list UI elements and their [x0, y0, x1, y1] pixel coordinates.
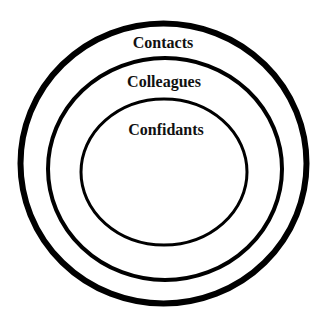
label-colleagues: Colleagues — [127, 73, 201, 91]
concentric-circles-diagram: Contacts Colleagues Confidants — [0, 0, 330, 323]
outer-ring-contacts — [21, 24, 307, 304]
label-contacts: Contacts — [133, 34, 193, 51]
label-confidants: Confidants — [128, 121, 204, 138]
